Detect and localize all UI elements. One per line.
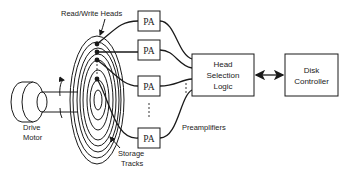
- drive-motor-label-2: Motor: [23, 133, 43, 142]
- preamp-1: PA: [138, 11, 160, 31]
- disk-platter: [70, 36, 124, 164]
- read-write-heads-pointer: [100, 19, 105, 35]
- pa-wire-ellipsis: [185, 83, 187, 93]
- read-write-heads-label: Read/Write Heads: [61, 9, 122, 18]
- disk-controller-box: Disk Controller: [285, 54, 338, 96]
- drive-motor: [11, 80, 78, 122]
- hsl-line-3: Logic: [213, 82, 232, 91]
- preamp-ellipsis: [148, 103, 150, 117]
- preamp-4: PA: [138, 128, 160, 148]
- preamplifiers-label: Preamplifiers: [182, 123, 226, 132]
- storage-tracks-label-2: Tracks: [121, 159, 143, 168]
- preamp-3: PA: [138, 76, 160, 96]
- storage-tracks-label-1: Storage: [118, 149, 144, 158]
- preamp-label: PA: [143, 82, 154, 92]
- diagram: PA PA PA PA Head Selection Logic Disk Co…: [0, 0, 351, 178]
- dc-line-1: Disk: [304, 66, 321, 75]
- preamp-label: PA: [143, 134, 154, 144]
- dc-line-2: Controller: [294, 77, 329, 86]
- diagram-canvas: PA PA PA PA Head Selection Logic Disk Co…: [0, 0, 351, 178]
- preamp-label: PA: [143, 46, 154, 56]
- preamp-2: PA: [138, 40, 160, 60]
- preamp-label: PA: [143, 17, 154, 27]
- head-selection-logic-box: Head Selection Logic: [192, 54, 254, 96]
- hsl-line-2: Selection: [207, 71, 240, 80]
- drive-motor-label-1: Drive: [23, 123, 41, 132]
- pa-wires: [160, 21, 192, 138]
- hsl-line-1: Head: [213, 60, 232, 69]
